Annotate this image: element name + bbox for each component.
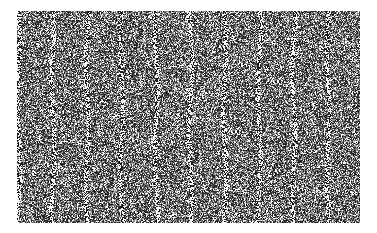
noise-canvas	[17, 11, 360, 223]
noise-image	[17, 11, 360, 223]
